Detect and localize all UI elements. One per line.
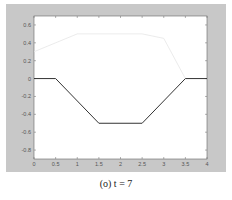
x-tick-label: 0 bbox=[32, 161, 35, 167]
line-chart: 00.511.522.533.540.60.40.20-0.2-0.4-0.6-… bbox=[0, 0, 232, 172]
x-tick-label: 4 bbox=[205, 161, 208, 167]
x-tick-label: 2 bbox=[119, 161, 122, 167]
x-tick-label: 0.5 bbox=[52, 161, 60, 167]
figure-caption: (o) t = 7 bbox=[0, 178, 232, 189]
x-tick-label: 1.5 bbox=[95, 161, 103, 167]
x-tick-label: 1 bbox=[76, 161, 79, 167]
figure: 00.511.522.533.540.60.40.20-0.2-0.4-0.6-… bbox=[0, 0, 232, 172]
y-tick-label: 0.4 bbox=[23, 40, 31, 46]
x-tick-label: 2.5 bbox=[138, 161, 146, 167]
plot-area bbox=[34, 16, 207, 159]
y-tick-label: 0 bbox=[28, 76, 31, 82]
y-tick-label: 0.2 bbox=[23, 58, 31, 64]
y-tick-label: -0.4 bbox=[22, 111, 31, 117]
y-tick-label: -0.8 bbox=[22, 147, 31, 153]
y-tick-label: -0.2 bbox=[22, 93, 31, 99]
y-tick-label: 0.6 bbox=[23, 22, 31, 28]
x-tick-label: 3 bbox=[162, 161, 165, 167]
x-tick-label: 3.5 bbox=[182, 161, 190, 167]
y-tick-label: -0.6 bbox=[22, 129, 31, 135]
